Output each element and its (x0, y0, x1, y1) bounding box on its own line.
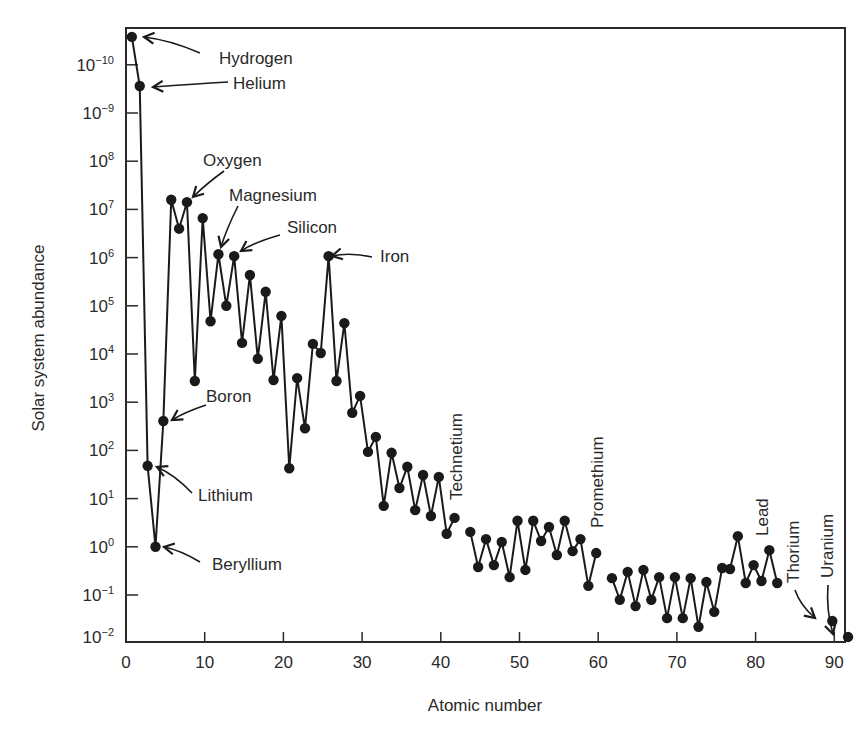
data-point (552, 550, 562, 560)
data-point (670, 572, 680, 582)
data-point (331, 376, 341, 386)
y-tick-label: 104 (89, 343, 114, 364)
data-point (733, 531, 743, 541)
arrowhead-icon (157, 466, 168, 476)
data-point (512, 516, 522, 526)
data-point (363, 447, 373, 457)
data-point (426, 511, 436, 521)
data-point (764, 545, 774, 555)
y-tick-label: 102 (89, 439, 114, 460)
data-point (567, 546, 577, 556)
y-tick-label: 105 (89, 295, 114, 316)
label-iron: Iron (380, 247, 409, 266)
label-uranium: Uranium (818, 514, 837, 578)
data-point (237, 338, 247, 348)
data-point (772, 578, 782, 588)
data-point (528, 516, 538, 526)
data-point (127, 32, 137, 42)
data-point (678, 613, 688, 623)
label-thorium: Thorium (784, 521, 803, 583)
label-silicon: Silicon (287, 218, 337, 237)
data-point (347, 408, 357, 418)
data-point (292, 373, 302, 383)
data-point (174, 223, 184, 233)
data-point (843, 632, 853, 642)
data-point (355, 391, 365, 401)
data-point (253, 354, 263, 364)
data-point (268, 375, 278, 385)
data-point (434, 472, 444, 482)
data-point (245, 270, 255, 280)
data-point (300, 423, 310, 433)
data-point (630, 601, 640, 611)
data-point (520, 565, 530, 575)
data-point (190, 376, 200, 386)
label-beryllium: Beryllium (212, 555, 282, 574)
data-point (441, 529, 451, 539)
data-point (560, 516, 570, 526)
data-point (260, 287, 270, 297)
data-point (339, 318, 349, 328)
y-tick-label: 100 (89, 536, 114, 557)
data-point (622, 567, 632, 577)
data-point (489, 560, 499, 570)
y-tick-label: 108 (89, 150, 114, 171)
data-point (646, 595, 656, 605)
data-point (182, 197, 192, 207)
data-point (481, 534, 491, 544)
arrow-icon (144, 37, 200, 53)
x-tick-label: 20 (274, 653, 293, 672)
arrow-icon (795, 590, 815, 618)
data-point (693, 622, 703, 632)
x-tick-label: 10 (195, 653, 214, 672)
label-boron: Boron (206, 387, 251, 406)
label-technetium: Technetium (447, 413, 466, 500)
data-point (158, 416, 168, 426)
data-point (536, 536, 546, 546)
data-point (198, 213, 208, 223)
data-point (607, 573, 617, 583)
label-hydrogen: Hydrogen (219, 49, 293, 68)
arrow-icon (157, 467, 192, 493)
data-point (756, 576, 766, 586)
data-point (583, 581, 593, 591)
x-tick-label: 90 (825, 653, 844, 672)
y-tick-label: 101 (89, 488, 114, 509)
data-point (308, 339, 318, 349)
arrow-icon (221, 206, 238, 247)
data-point (741, 578, 751, 588)
label-helium: Helium (233, 74, 286, 93)
y-tick-label: 10−10 (76, 54, 114, 75)
data-point (316, 348, 326, 358)
data-point (166, 195, 176, 205)
data-point (591, 548, 601, 558)
data-point (575, 534, 585, 544)
data-point (544, 522, 554, 532)
arrow-icon (332, 254, 372, 257)
y-tick-label: 10−1 (83, 584, 114, 605)
data-point (284, 463, 294, 473)
data-point (449, 513, 459, 523)
data-point (418, 470, 428, 480)
y-tick-label: 103 (89, 391, 114, 412)
abundance-chart: 0102030405060708090 10−1010−910810710610… (0, 0, 868, 735)
data-point (379, 501, 389, 511)
arrow-icon (193, 171, 224, 197)
label-oxygen: Oxygen (203, 151, 262, 170)
data-point (638, 565, 648, 575)
x-axis-ticks: 0102030405060708090 (121, 632, 843, 672)
plot-border (126, 28, 845, 642)
data-point (402, 462, 412, 472)
label-lithium: Lithium (198, 486, 253, 505)
data-point (394, 483, 404, 493)
data-point (142, 461, 152, 471)
data-point (410, 505, 420, 515)
data-point (725, 564, 735, 574)
data-point (386, 448, 396, 458)
x-tick-label: 50 (510, 653, 529, 672)
arrow-icon (164, 547, 200, 562)
data-point (662, 613, 672, 623)
x-tick-label: 70 (667, 653, 686, 672)
y-tick-label: 10−2 (83, 626, 114, 647)
label-promethium: Promethium (588, 436, 607, 528)
